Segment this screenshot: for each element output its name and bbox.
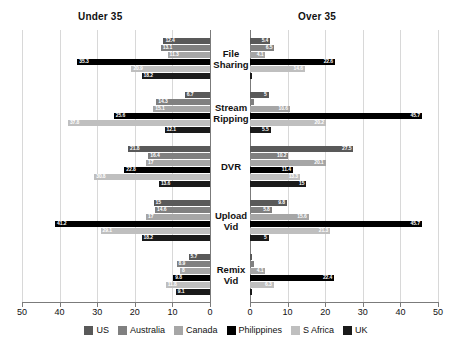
bar-row: 12.1	[22, 127, 210, 133]
bar: 6.7	[185, 92, 210, 98]
bar-row: 37.8	[22, 120, 210, 126]
bar: 15.6	[250, 214, 309, 220]
bar: 5.7	[189, 254, 210, 260]
bar-value-label: 8.9	[179, 260, 186, 267]
bar-value-label: 4.1	[257, 267, 264, 274]
bar: 13.3	[250, 174, 300, 180]
bar-row: 13.1	[22, 45, 210, 51]
bar-row: 14.6	[250, 66, 438, 72]
axis-tick-label: 50	[12, 307, 32, 317]
chart-legend: USAustraliaCanadaPhilippinesS AfricaUK	[0, 325, 452, 335]
bar-value-label: 14.6	[157, 206, 166, 213]
bar-row: 4.1	[250, 52, 438, 58]
bar-row: 6.5	[250, 45, 438, 51]
axis-tick-label: 10	[162, 307, 182, 317]
bar-value-label: 6.5	[266, 44, 273, 51]
bar-row: 13.6	[22, 181, 210, 187]
bar: 22.6	[250, 59, 335, 65]
bar: 17	[146, 214, 210, 220]
bar-value-label: 13.3	[289, 173, 298, 180]
category-label-line: Vid	[206, 221, 256, 232]
bar-value-label: 6.7	[187, 91, 194, 98]
bar-value-label: 25.6	[116, 112, 125, 119]
bar-value-label: 10.2	[277, 152, 286, 159]
bar-row: 35.3	[22, 59, 210, 65]
bar: 16.4	[148, 153, 210, 159]
bar: 21.8	[128, 146, 210, 152]
bar: 12.1	[165, 127, 210, 133]
bar-row: 12.4	[22, 38, 210, 44]
bar-row: 21.8	[22, 146, 210, 152]
bar: 10.2	[250, 153, 288, 159]
bar-row: 10.2	[250, 153, 438, 159]
bar-value-label: 11.3	[170, 51, 179, 58]
bar-value-label: 15.1	[155, 105, 164, 112]
axis-tick-label: 20	[125, 307, 145, 317]
bar-group: 1514.61741.229.118.2	[22, 200, 210, 254]
bar-value-label: 5	[264, 234, 267, 241]
bar-row: 15	[22, 200, 210, 206]
bar-value-label: 41.2	[57, 220, 66, 227]
legend-item-us[interactable]: US	[84, 325, 109, 335]
legend-swatch-icon	[291, 326, 300, 335]
bar	[250, 254, 252, 260]
legend-item-australia[interactable]: Australia	[118, 325, 165, 335]
axis-tick-label: 30	[87, 307, 107, 317]
category-label: StreamRipping	[206, 102, 256, 124]
bar: 14.6	[155, 207, 210, 213]
bar: 18.2	[142, 73, 210, 79]
bar-row: 6.7	[22, 92, 210, 98]
bar: 18.2	[142, 235, 210, 241]
category-label-line: DVR	[206, 161, 256, 172]
legend-item-uk[interactable]: UK	[343, 325, 368, 335]
x-axis-line-right	[250, 302, 439, 303]
legend-label: S Africa	[303, 325, 334, 335]
bar-row: 30.8	[22, 174, 210, 180]
category-label-line: Stream	[206, 102, 256, 113]
bar-value-label: 13.6	[161, 180, 170, 187]
bar-value-label: 20.9	[133, 65, 142, 72]
bar-value-label: 29.1	[103, 227, 112, 234]
bar-row: 22.4	[250, 275, 438, 281]
legend-item-philippines[interactable]: Philippines	[227, 325, 283, 335]
bar-value-label: 5.5	[262, 126, 269, 133]
category-label: UploadVid	[206, 210, 256, 232]
bar-value-label: 21.8	[130, 145, 139, 152]
bar-value-label: 45.7	[410, 112, 419, 119]
legend-swatch-icon	[174, 326, 183, 335]
bar-value-label: 15.6	[297, 213, 306, 220]
bar-group: 5.46.54.122.614.6	[250, 38, 438, 92]
bar-value-label: 14.6	[294, 65, 303, 72]
bar-row: 5	[250, 235, 438, 241]
bar-value-label: 8	[182, 267, 185, 274]
legend-item-canada[interactable]: Canada	[174, 325, 218, 335]
bar-row: 22.6	[250, 59, 438, 65]
bar-value-label: 22.4	[323, 274, 332, 281]
plot-area-over-35: 5.46.54.122.614.6510.645.720.25.527.510.…	[250, 30, 438, 302]
legend-swatch-icon	[227, 326, 236, 335]
bar-value-label: 18.2	[144, 72, 153, 79]
bar-value-label: 11.8	[168, 281, 177, 288]
bar-value-label: 16.4	[150, 152, 159, 159]
bar: 11.8	[166, 282, 210, 288]
bar: 17	[146, 160, 210, 166]
bar-row: 18.2	[22, 235, 210, 241]
bar: 5	[250, 92, 269, 98]
bar: 41.2	[55, 221, 210, 227]
bar-value-label: 9.8	[175, 274, 182, 281]
bar-row: 5	[250, 92, 438, 98]
bar-value-label: 5	[264, 91, 267, 98]
bar-group: 12.413.111.335.320.918.2	[22, 38, 210, 92]
bar-row: 5.5	[250, 127, 438, 133]
bar-value-label: 27.5	[342, 145, 351, 152]
axis-tick-label: 50	[428, 307, 448, 317]
bar-row: 25.6	[22, 113, 210, 119]
plot-area-under-35: 12.413.111.335.320.918.26.714.315.125.63…	[22, 30, 210, 302]
bar-row	[250, 73, 438, 79]
x-axis-line-left	[22, 302, 211, 303]
bar: 37.8	[68, 120, 210, 126]
bar-value-label: 20.2	[315, 119, 324, 126]
legend-item-s-africa[interactable]: S Africa	[291, 325, 334, 335]
bar: 35.3	[77, 59, 210, 65]
bar: 30.8	[94, 174, 210, 180]
